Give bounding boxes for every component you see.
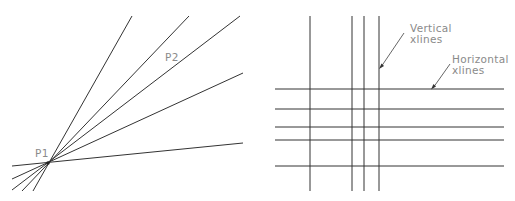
horizontal-xlines-label-line2: xlines — [452, 65, 509, 76]
vertical-xlines-label-line2: xlines — [410, 34, 452, 45]
construction-ray — [22, 16, 189, 191]
horizontal-leader — [433, 64, 450, 88]
horizontal-xlines-label: Horizontal xlines — [452, 54, 509, 76]
construction-ray — [12, 16, 240, 190]
vertical-xlines-label: Vertical xlines — [410, 23, 452, 45]
left-ray-diagram — [12, 16, 243, 191]
p1-label: P1 — [35, 148, 49, 159]
p1-point — [46, 161, 50, 165]
right-grid-diagram — [275, 16, 504, 191]
vertical-leader — [381, 33, 404, 67]
p2-label: P2 — [165, 52, 179, 63]
